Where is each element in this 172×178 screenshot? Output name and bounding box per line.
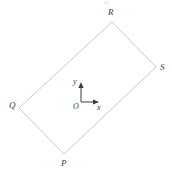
vertex-label-r: R — [108, 8, 114, 17]
origin-label: O — [73, 103, 79, 111]
vertex-label-s: S — [160, 63, 165, 72]
top-artifact-mark — [104, 1, 109, 5]
x-axis-label: x — [97, 104, 101, 112]
rectangle-pqrs-shape — [19, 22, 156, 154]
y-axis-label: y — [73, 78, 77, 86]
figure-canvas — [0, 0, 172, 178]
vertex-label-p: P — [61, 159, 67, 168]
y-axis-arrowhead-icon — [78, 82, 83, 88]
vertex-label-q: Q — [9, 101, 16, 110]
geometry-figure: R S Q P y x O — [0, 0, 172, 178]
